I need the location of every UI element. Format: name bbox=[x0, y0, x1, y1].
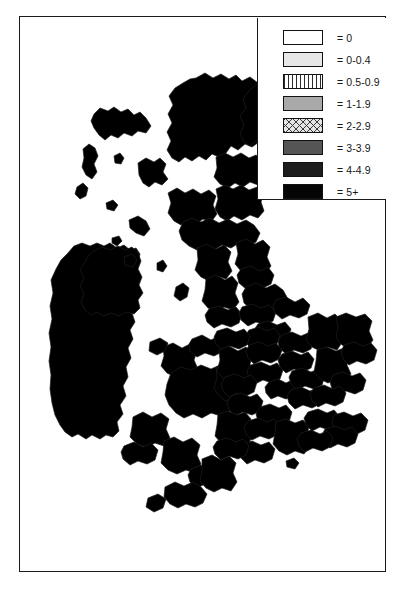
region-isle-of-man bbox=[174, 283, 189, 301]
region-west-sussex bbox=[297, 430, 333, 452]
legend-swatch-1 bbox=[283, 52, 323, 67]
legend-entry-7: = 5+ bbox=[283, 182, 358, 201]
legend-label-4: = 2-2.9 bbox=[337, 120, 371, 132]
region-isle-of-mull bbox=[129, 216, 150, 236]
legend-swatch-6 bbox=[283, 162, 323, 177]
legend-swatch-0 bbox=[283, 30, 323, 45]
legend-label-3: = 1-1.9 bbox=[337, 98, 371, 110]
region-isle-of-skye bbox=[138, 158, 168, 187]
legend-entry-4: = 2-2.9 bbox=[283, 116, 371, 135]
legend-entry-1: = 0-0.4 bbox=[283, 50, 371, 69]
region-cornwall-west bbox=[146, 494, 166, 512]
legend-label-2: = 0.5-0.9 bbox=[337, 76, 380, 88]
region-humberside bbox=[273, 297, 310, 319]
legend-swatch-3 bbox=[283, 96, 323, 111]
legend-entry-6: = 4-4.9 bbox=[283, 160, 371, 179]
region-suffolk bbox=[341, 342, 377, 365]
region-greater-manchester bbox=[205, 306, 242, 328]
region-outer-hebrides-south bbox=[82, 144, 98, 179]
region-cheshire bbox=[214, 328, 250, 350]
legend-swatch-2 bbox=[283, 74, 323, 89]
map-frame: = 0 = 0-0.4 = 0.5-0.9 = 1-1.9 = 2-2.9 = bbox=[19, 16, 386, 572]
legend-entry-0: = 0 bbox=[283, 28, 352, 47]
legend-swatch-4 bbox=[283, 118, 323, 133]
legend-swatch-7 bbox=[283, 184, 323, 199]
legend-label-1: = 0-0.4 bbox=[337, 54, 371, 66]
region-small-isle-c bbox=[112, 236, 122, 246]
region-isle-of-arran bbox=[157, 260, 167, 272]
region-island-small-b bbox=[106, 200, 118, 211]
legend-label-5: = 3-3.9 bbox=[337, 142, 371, 154]
legend-entry-3: = 1-1.9 bbox=[283, 94, 371, 113]
region-west-glamorgan bbox=[121, 442, 158, 465]
legend-label-7: = 5+ bbox=[337, 186, 358, 198]
legend-entry-5: = 3-3.9 bbox=[283, 138, 371, 157]
legend-swatch-5 bbox=[283, 140, 323, 155]
region-outer-hebrides-barra bbox=[75, 183, 88, 199]
figure-canvas: = 0 = 0-0.4 = 0.5-0.9 = 1-1.9 = 2-2.9 = bbox=[0, 0, 407, 595]
region-staffordshire bbox=[246, 342, 282, 364]
region-island-small-a bbox=[114, 153, 124, 164]
region-outer-hebrides-lewis bbox=[91, 107, 151, 140]
legend-label-6: = 4-4.9 bbox=[337, 164, 371, 176]
region-devon bbox=[200, 455, 237, 492]
region-cumbria bbox=[195, 244, 232, 281]
legend-label-0: = 0 bbox=[337, 32, 352, 44]
region-isle-of-wight bbox=[286, 458, 299, 469]
region-hertfordshire bbox=[310, 385, 346, 407]
legend-entry-2: = 0.5-0.9 bbox=[283, 72, 380, 91]
map-legend: = 0 = 0-0.4 = 0.5-0.9 = 1-1.9 = 2-2.9 = bbox=[257, 18, 386, 200]
